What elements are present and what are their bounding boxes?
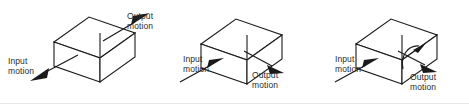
- motion-diagram-figure: Input motion Output motion: [0, 0, 469, 104]
- panel-3-output-label: Output motion: [410, 72, 436, 92]
- panel-linear-to-linear-reversing: Input motion Output motion: [0, 0, 157, 104]
- panel-1-input-label: Input motion: [8, 56, 34, 76]
- panel-2-input-label: Input motion: [183, 54, 209, 74]
- panel-1-output-label: Output motion: [127, 11, 153, 31]
- panel-3-drawing: [312, 0, 469, 104]
- panel-2-output-label: Output motion: [252, 70, 278, 90]
- box-outline-1: [54, 17, 135, 82]
- panel-1-output-label-line2: motion: [127, 21, 153, 31]
- panel-3-output-label-line2: motion: [410, 82, 436, 92]
- panel-3-output-label-line1: Output: [410, 72, 436, 82]
- panel-2-drawing: [156, 0, 313, 104]
- panel-2-input-label-line1: Input: [183, 54, 209, 64]
- panel-2-output-label-line2: motion: [252, 80, 278, 90]
- panel-1-input-label-line2: motion: [8, 66, 34, 76]
- panel-2-output-label-line1: Output: [252, 70, 278, 80]
- panel-3-input-label-line2: motion: [335, 64, 361, 74]
- panel-1-output-label-line1: Output: [127, 11, 153, 21]
- panel-2-input-label-line2: motion: [183, 64, 209, 74]
- panel-linear-to-linear-parallel: Input motion Output motion: [156, 0, 313, 104]
- panel-linear-to-rotary: Input motion Output motion: [312, 0, 469, 104]
- panel-3-input-label-line1: Input: [335, 54, 361, 64]
- panel-1-input-label-line1: Input: [8, 56, 34, 66]
- panel-3-input-label: Input motion: [335, 54, 361, 74]
